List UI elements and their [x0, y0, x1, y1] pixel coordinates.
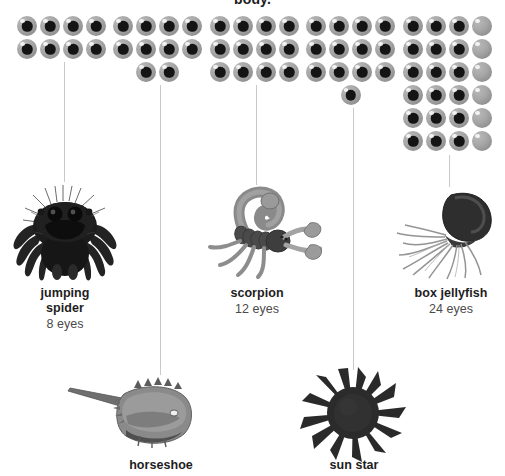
- eye-icon: [329, 16, 349, 36]
- eye-icon: [136, 39, 156, 59]
- eye-highlight: [66, 19, 71, 23]
- eye-row: [113, 39, 202, 59]
- eye-icon: [233, 39, 253, 59]
- eye-highlight: [452, 134, 457, 138]
- eye-icon-simple: [472, 131, 492, 151]
- eye-highlight: [452, 19, 457, 23]
- eye-highlight: [406, 111, 411, 115]
- eye-icon: [86, 39, 106, 59]
- creature-name: scorpion: [182, 286, 332, 301]
- eye-highlight: [282, 42, 287, 46]
- eye-icon: [136, 16, 156, 36]
- eye-icon: [403, 62, 423, 82]
- eye-icon: [210, 16, 230, 36]
- eye-row: [306, 62, 395, 82]
- eye-highlight: [139, 65, 144, 69]
- eye-icon: [449, 108, 469, 128]
- eye-icon: [159, 16, 179, 36]
- sun-star-illustration: [298, 363, 408, 463]
- eye-highlight: [213, 19, 218, 23]
- eye-icon: [233, 62, 253, 82]
- eye-highlight: [282, 19, 287, 23]
- creature-name: sun star: [279, 458, 429, 473]
- eye-icon: [182, 16, 202, 36]
- eye-highlight: [429, 88, 434, 92]
- eye-cluster-jumping-spider: [17, 16, 106, 62]
- eye-row: [403, 39, 492, 59]
- eye-icon: [426, 85, 446, 105]
- label-scorpion: scorpion 12 eyes: [182, 286, 332, 317]
- eye-row: [210, 62, 299, 82]
- label-sun-star: sun star: [279, 458, 429, 473]
- eye-icon-simple: [472, 62, 492, 82]
- eye-highlight: [332, 19, 337, 23]
- eye-icon: [403, 85, 423, 105]
- eye-icon: [86, 16, 106, 36]
- eye-icon: [182, 39, 202, 59]
- eye-highlight: [309, 42, 314, 46]
- creature-eye-count: 8 eyes: [0, 316, 140, 332]
- eye-icon: [63, 39, 83, 59]
- eye-icon: [17, 16, 37, 36]
- eye-icon: [375, 62, 395, 82]
- eye-icon: [113, 39, 133, 59]
- eye-row: [403, 108, 492, 128]
- eye-cluster-sun-star: [306, 16, 395, 108]
- label-horseshoe-crab: horseshoe: [86, 458, 236, 473]
- eye-icon: [256, 39, 276, 59]
- eye-highlight: [344, 88, 349, 92]
- eye-highlight: [259, 42, 264, 46]
- eye-highlight: [185, 42, 190, 46]
- eye-icon: [306, 16, 326, 36]
- eye-icon: [352, 39, 372, 59]
- eye-icon-simple: [472, 85, 492, 105]
- eye-icon: [329, 62, 349, 82]
- eye-highlight: [475, 19, 480, 23]
- eye-icon-simple: [472, 16, 492, 36]
- eye-icon: [426, 62, 446, 82]
- eye-icon: [403, 16, 423, 36]
- eye-highlight: [406, 65, 411, 69]
- eye-highlight: [475, 88, 480, 92]
- eye-highlight: [332, 42, 337, 46]
- eye-icon: [210, 39, 230, 59]
- creature-name: horseshoe: [86, 458, 236, 473]
- eye-highlight: [378, 42, 383, 46]
- eye-highlight: [236, 19, 241, 23]
- eye-highlight: [213, 42, 218, 46]
- eye-icon: [426, 131, 446, 151]
- eye-icon: [159, 62, 179, 82]
- eye-row: [17, 39, 106, 59]
- box-jellyfish-illustration: [385, 185, 503, 280]
- creature-eye-count: 24 eyes: [376, 301, 505, 317]
- eye-icon: [449, 85, 469, 105]
- eye-icon: [352, 62, 372, 82]
- eye-icon: [17, 39, 37, 59]
- eye-icon: [279, 39, 299, 59]
- eye-row: [403, 16, 492, 36]
- eye-highlight: [452, 111, 457, 115]
- eye-highlight: [378, 65, 383, 69]
- eye-icon: [256, 16, 276, 36]
- eye-highlight: [452, 88, 457, 92]
- eye-icon: [426, 16, 446, 36]
- eye-highlight: [406, 88, 411, 92]
- eye-row: [210, 16, 299, 36]
- eye-highlight: [185, 19, 190, 23]
- eye-highlight: [452, 65, 457, 69]
- eye-highlight: [162, 42, 167, 46]
- eye-row: [210, 39, 299, 59]
- eye-cluster-horseshoe-crab: [113, 16, 202, 85]
- eye-icon: [40, 16, 60, 36]
- eye-row: [113, 62, 202, 82]
- eye-icon: [341, 85, 361, 105]
- eye-icon: [449, 62, 469, 82]
- connector-sun-star: [353, 108, 354, 370]
- eye-icon: [233, 16, 253, 36]
- eye-highlight: [20, 42, 25, 46]
- eye-icon: [279, 62, 299, 82]
- eye-icon: [113, 16, 133, 36]
- eye-icon: [449, 39, 469, 59]
- connector-horseshoe-crab: [160, 85, 161, 375]
- eye-highlight: [236, 65, 241, 69]
